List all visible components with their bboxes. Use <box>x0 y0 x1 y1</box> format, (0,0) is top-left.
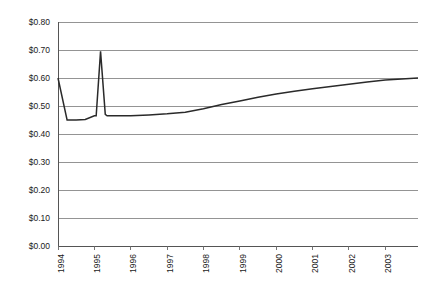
y-axis-label-2: $0.20 <box>29 185 51 195</box>
y-axis-label-7: $0.70 <box>29 45 51 55</box>
y-axis-label-3: $0.30 <box>29 157 51 167</box>
x-axis-label-0: 1994 <box>56 254 66 273</box>
x-axis-label-8: 2002 <box>347 254 357 273</box>
x-axis-label-5: 1999 <box>238 254 248 273</box>
data-series-price <box>58 51 418 120</box>
y-axis-label-1: $0.10 <box>29 213 51 223</box>
y-axis-label-8: $0.80 <box>29 17 51 27</box>
x-axis-label-4: 1998 <box>201 254 211 273</box>
y-axis-label-5: $0.50 <box>29 101 51 111</box>
chart-canvas: $0.00$0.10$0.20$0.30$0.40$0.50$0.60$0.70… <box>0 0 438 293</box>
x-axis-label-2: 1996 <box>128 254 138 273</box>
x-axis-label-7: 2001 <box>310 254 320 273</box>
x-axis-label-1: 1995 <box>92 254 102 273</box>
line-chart: $0.00$0.10$0.20$0.30$0.40$0.50$0.60$0.70… <box>0 0 438 293</box>
y-axis-label-4: $0.40 <box>29 129 51 139</box>
x-axis-label-6: 2000 <box>274 254 284 273</box>
x-axis-label-3: 1997 <box>165 254 175 273</box>
y-axis-label-6: $0.60 <box>29 73 51 83</box>
y-axis-label-0: $0.00 <box>29 241 51 251</box>
x-axis-label-9: 2003 <box>383 254 393 273</box>
